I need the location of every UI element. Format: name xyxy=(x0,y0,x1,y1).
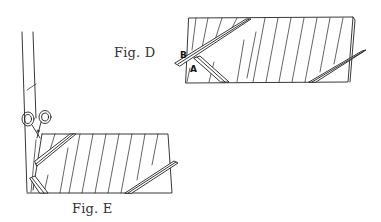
fig-d-fabric-strip xyxy=(175,17,366,83)
fig-d-band-right xyxy=(309,50,366,82)
fig-e-outline xyxy=(27,134,172,193)
fig-d-label-b: B xyxy=(180,50,187,60)
fig-d-label-a: A xyxy=(190,64,197,74)
illustration-canvas xyxy=(0,0,381,222)
fig-e-band-right xyxy=(125,161,178,193)
fig-d-band-a xyxy=(194,56,229,82)
fig-e-caption: Fig. E xyxy=(72,201,112,216)
fig-e-band-lower xyxy=(30,176,48,193)
fig-d-caption: Fig. D xyxy=(114,45,155,60)
fig-e-strip-right-edge xyxy=(33,32,36,118)
